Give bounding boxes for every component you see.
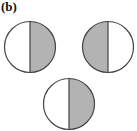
half-shaded-circles xyxy=(0,0,137,131)
diagram-canvas: (b) xyxy=(0,0,137,131)
circle-bottom xyxy=(44,79,95,130)
circle-top-left xyxy=(5,22,56,73)
shaded-half xyxy=(30,22,56,73)
shaded-half xyxy=(83,22,108,73)
shaded-half xyxy=(69,79,95,130)
circle-top-right xyxy=(83,22,134,73)
